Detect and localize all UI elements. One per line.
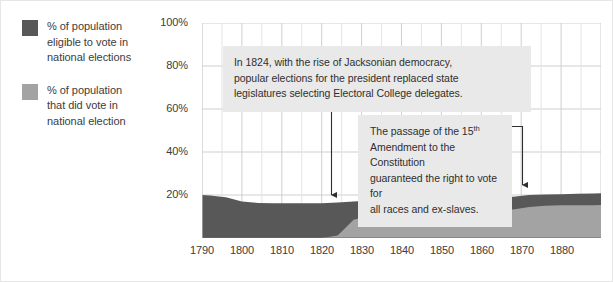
x-tick-1790: 1790	[190, 244, 214, 256]
x-tick-1800: 1800	[230, 244, 254, 256]
y-axis: 100% 80% 60% 40% 20%	[1, 1, 197, 282]
x-tick-1830: 1830	[350, 244, 374, 256]
annotation-jacksonian-line3: legislatures selecting Electoral College…	[234, 87, 463, 99]
annotation-amendment-pre: The passage of the 15	[370, 125, 473, 137]
annotation-amendment-ordinal-suffix: th	[473, 124, 479, 133]
annotation-jacksonian-line2: popular elections for the president repl…	[234, 72, 459, 84]
y-tick-80: 80%	[166, 59, 188, 71]
y-tick-20: 20%	[166, 188, 188, 200]
x-tick-1850: 1850	[430, 244, 454, 256]
annotation-jacksonian-democracy: In 1824, with the rise of Jacksonian dem…	[223, 46, 531, 112]
x-tick-1840: 1840	[390, 244, 414, 256]
y-tick-100: 100%	[160, 16, 188, 28]
annotation-jacksonian-line1: In 1824, with the rise of Jacksonian dem…	[234, 56, 452, 68]
x-axis: 1790 1800 1810 1820 1830 1840 1850 1860 …	[202, 244, 613, 266]
x-tick-1810: 1810	[270, 244, 294, 256]
y-tick-60: 60%	[166, 102, 188, 114]
annotation-15th-amendment: The passage of the 15th Amendment to the…	[358, 115, 512, 227]
x-tick-1820: 1820	[310, 244, 334, 256]
y-tick-40: 40%	[166, 145, 188, 157]
chart-page: % of population eligible to vote in nati…	[0, 0, 613, 282]
x-tick-1860: 1860	[470, 244, 494, 256]
annotation-amendment-rest: Amendment to the Constitution guaranteed…	[370, 141, 497, 215]
x-tick-1870: 1870	[510, 244, 534, 256]
x-tick-1880: 1880	[550, 244, 574, 256]
